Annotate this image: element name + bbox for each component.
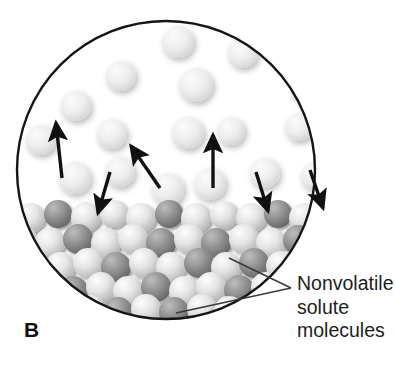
vapor-molecule: [26, 125, 56, 155]
callout-line-1: Nonvolatile: [297, 272, 395, 296]
panel-label-b: B: [24, 318, 39, 342]
solvent-molecule: [30, 273, 60, 303]
liquid-molecules: [7, 200, 319, 327]
callout-line-2: solute: [297, 296, 395, 320]
vapor-molecule: [250, 158, 280, 188]
figure-canvas: Nonvolatile solute molecules B: [0, 0, 395, 367]
solute-molecule: [44, 200, 72, 228]
solvent-molecule: [100, 200, 128, 228]
vapor-molecule: [194, 168, 226, 200]
vapor-phase-region: [10, 14, 329, 214]
vapor-molecule: [162, 26, 194, 58]
solute-molecule: [159, 297, 189, 327]
vapor-molecule: [179, 68, 213, 102]
vapor-molecule: [97, 119, 127, 149]
liquid-phase-region: [7, 200, 319, 327]
vapor-molecule: [106, 61, 136, 91]
solvent-molecule: [210, 201, 238, 229]
callout-label: Nonvolatile solute molecules: [297, 272, 395, 343]
callout-line-3: molecules: [297, 319, 395, 343]
vapor-molecule: [217, 117, 245, 145]
solute-molecule: [155, 200, 183, 228]
solute-molecule: [264, 200, 292, 228]
vapor-molecule: [59, 162, 91, 194]
solute-molecule: [58, 276, 88, 306]
vapor-molecule: [61, 91, 91, 121]
vapor-molecule: [172, 117, 204, 149]
solvent-molecule: [7, 225, 37, 255]
